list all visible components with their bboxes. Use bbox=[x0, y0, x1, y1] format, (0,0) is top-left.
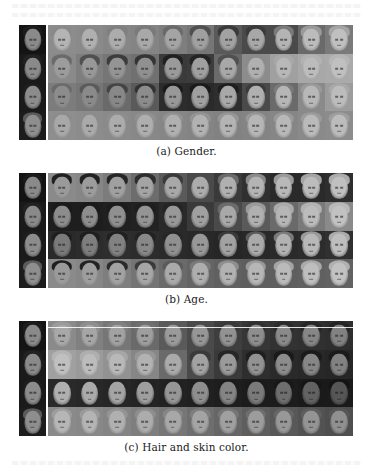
eyes-shape bbox=[197, 392, 204, 394]
mouth-shape bbox=[310, 45, 314, 46]
face-shape bbox=[247, 57, 265, 79]
eyes-shape bbox=[114, 363, 121, 365]
face-shape bbox=[219, 29, 237, 51]
eyes-shape bbox=[86, 335, 93, 337]
source-face-image bbox=[19, 350, 46, 379]
bleed-through-text-top-2 bbox=[12, 13, 361, 17]
interpolation-grid bbox=[48, 173, 353, 288]
face-shape bbox=[53, 234, 71, 256]
mouth-shape bbox=[171, 193, 175, 194]
eyes-shape bbox=[29, 273, 36, 275]
mouth-shape bbox=[282, 279, 286, 280]
generated-face-image bbox=[187, 25, 215, 54]
bleed-through-text-bottom bbox=[12, 461, 361, 465]
face-shape bbox=[108, 205, 126, 227]
generated-face-image bbox=[187, 173, 215, 202]
generated-face-image bbox=[187, 231, 215, 260]
face-shape bbox=[24, 353, 41, 375]
generated-face-image bbox=[131, 407, 159, 436]
face-shape bbox=[303, 115, 321, 137]
generated-face-image bbox=[325, 54, 353, 83]
eyes-shape bbox=[336, 363, 343, 365]
source-face-image bbox=[19, 407, 46, 436]
generated-face-image bbox=[325, 379, 353, 408]
mouth-shape bbox=[310, 398, 314, 399]
mouth-shape bbox=[199, 279, 203, 280]
mouth-shape bbox=[254, 193, 258, 194]
face-shape bbox=[247, 382, 265, 404]
eyes-shape bbox=[141, 273, 148, 275]
face-shape bbox=[164, 263, 182, 285]
face-shape bbox=[24, 411, 41, 433]
generated-face-image bbox=[214, 407, 242, 436]
face-shape bbox=[275, 382, 293, 404]
generated-face-image bbox=[187, 111, 215, 140]
mouth-shape bbox=[254, 74, 258, 75]
face-shape bbox=[53, 115, 71, 137]
mouth-shape bbox=[116, 131, 120, 132]
eyes-shape bbox=[280, 421, 287, 423]
generated-face-image bbox=[214, 231, 242, 260]
face-shape bbox=[303, 263, 321, 285]
eyes-shape bbox=[336, 39, 343, 41]
generated-face-image bbox=[76, 173, 104, 202]
mouth-shape bbox=[60, 341, 64, 342]
artifact-line bbox=[270, 327, 298, 328]
generated-face-image bbox=[159, 407, 187, 436]
eyes-shape bbox=[197, 421, 204, 423]
face-shape bbox=[192, 57, 210, 79]
eyes-shape bbox=[336, 421, 343, 423]
generated-face-image bbox=[76, 83, 104, 112]
eyes-shape bbox=[280, 67, 287, 69]
generated-face-image bbox=[159, 111, 187, 140]
mouth-shape bbox=[337, 398, 341, 399]
mouth-shape bbox=[143, 398, 147, 399]
mouth-shape bbox=[171, 370, 175, 371]
eyes-shape bbox=[114, 215, 121, 217]
mouth-shape bbox=[116, 341, 120, 342]
eyes-shape bbox=[280, 39, 287, 41]
face-shape bbox=[192, 29, 210, 51]
mouth-shape bbox=[88, 427, 92, 428]
face-shape bbox=[136, 177, 154, 199]
mouth-shape bbox=[337, 102, 341, 103]
generated-face-image bbox=[270, 173, 298, 202]
face-shape bbox=[81, 353, 99, 375]
source-image-column bbox=[19, 25, 46, 140]
face-shape bbox=[275, 263, 293, 285]
mouth-shape bbox=[282, 131, 286, 132]
mouth-shape bbox=[116, 427, 120, 428]
face-shape bbox=[108, 382, 126, 404]
generated-face-image bbox=[159, 25, 187, 54]
generated-face-image bbox=[159, 350, 187, 379]
generated-face-image bbox=[214, 350, 242, 379]
eyes-shape bbox=[169, 363, 176, 365]
face-shape bbox=[247, 115, 265, 137]
face-shape bbox=[164, 57, 182, 79]
face-shape bbox=[275, 29, 293, 51]
face-shape bbox=[330, 205, 348, 227]
face-shape bbox=[192, 263, 210, 285]
face-shape bbox=[219, 382, 237, 404]
face-shape bbox=[24, 29, 41, 51]
face-shape bbox=[303, 411, 321, 433]
eyes-shape bbox=[86, 215, 93, 217]
generated-face-image bbox=[298, 202, 326, 231]
face-shape bbox=[219, 57, 237, 79]
mouth-shape bbox=[226, 250, 230, 251]
eyes-shape bbox=[225, 392, 232, 394]
face-shape bbox=[192, 86, 210, 108]
generated-face-image bbox=[103, 350, 131, 379]
generated-face-image bbox=[76, 54, 104, 83]
generated-face-image bbox=[214, 202, 242, 231]
mouth-shape bbox=[116, 193, 120, 194]
source-face-image bbox=[19, 111, 46, 140]
source-face-image bbox=[19, 54, 46, 83]
mouth-shape bbox=[199, 370, 203, 371]
generated-face-image bbox=[48, 54, 76, 83]
generated-face-image bbox=[242, 231, 270, 260]
face-shape bbox=[192, 411, 210, 433]
eyes-shape bbox=[225, 244, 232, 246]
generated-face-image bbox=[270, 259, 298, 288]
generated-face-image bbox=[242, 173, 270, 202]
